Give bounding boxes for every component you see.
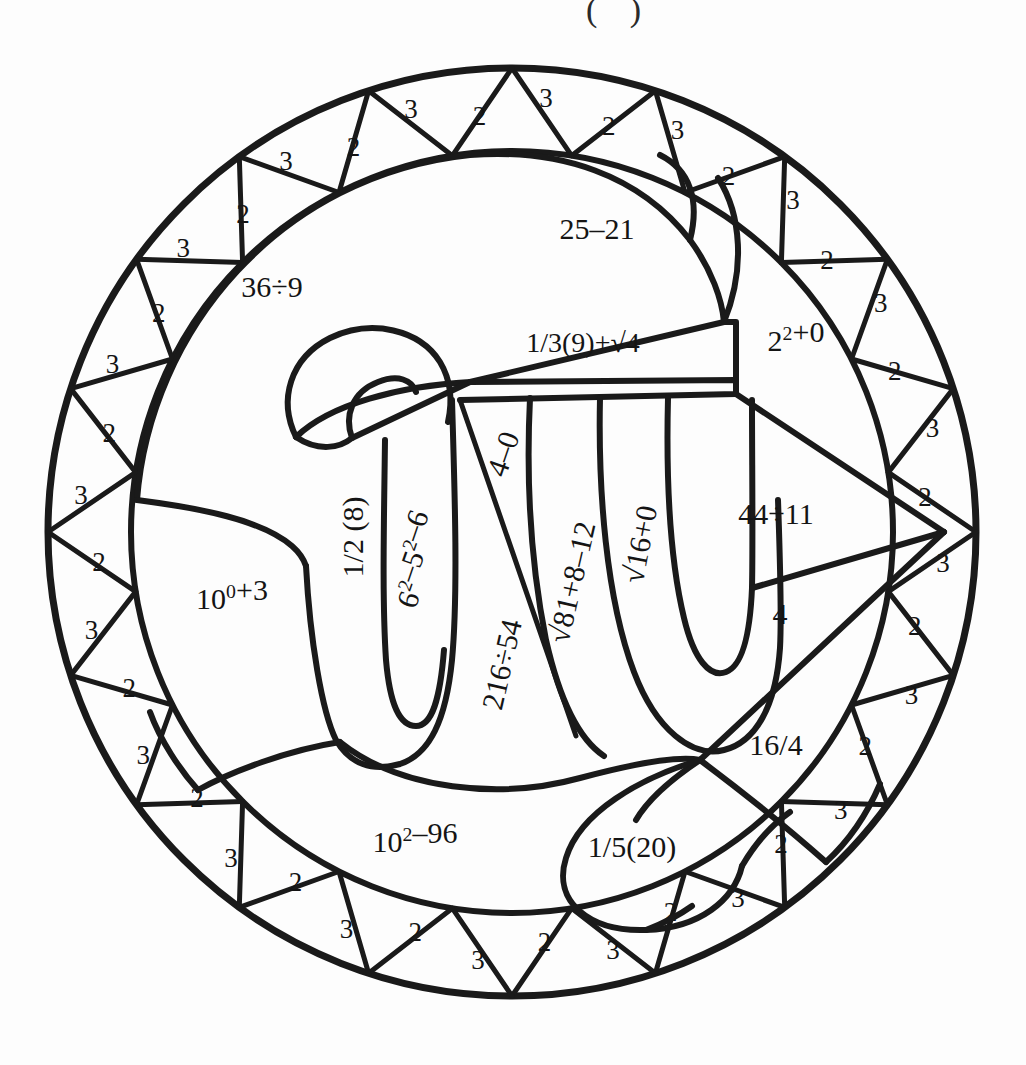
ring-spoke xyxy=(239,801,242,907)
ring-number: 3 xyxy=(340,914,354,944)
region-36-divided-by-9[interactable]: 36÷9 xyxy=(241,270,302,303)
pi-right-leg-inner xyxy=(668,398,753,673)
region-one-third-nine-plus-sqrt-four[interactable]: 1/3(9)+√4 xyxy=(526,327,640,358)
top-partial-mark: ( ) xyxy=(586,0,653,29)
ring-number: 3 xyxy=(85,615,99,645)
ring-number: 3 xyxy=(671,115,685,145)
ring-number: 3 xyxy=(176,233,190,263)
ring-spoke xyxy=(71,592,136,676)
ring-number: 2 xyxy=(473,101,487,131)
region-44-divided-by-11[interactable]: 44÷11 xyxy=(738,497,813,530)
ring-number: 2 xyxy=(820,245,834,275)
ring-number: 2 xyxy=(908,611,922,641)
region-sixteen-over-four[interactable]: 16/4 xyxy=(749,728,802,761)
ring-number: 3 xyxy=(606,935,620,965)
ring-number: 3 xyxy=(137,740,151,770)
ring-number: 2 xyxy=(92,547,106,577)
ring-number: 3 xyxy=(74,480,88,510)
ring-number: 2 xyxy=(858,731,872,761)
ring-number: 2 xyxy=(602,111,616,141)
region-four[interactable]: 4 xyxy=(773,597,788,630)
mandala-figure: 3232323232323232323232323232323232323232 xyxy=(0,0,1026,1065)
region-sqrt-81-plus-8-minus-12[interactable]: √81+8–12 xyxy=(542,518,602,646)
ring-number: 3 xyxy=(926,413,940,443)
ring-spoke xyxy=(852,359,954,389)
ring-number-labels-group: 3232323232323232323232323232323232323232 xyxy=(74,83,950,975)
ring-number: 2 xyxy=(289,867,303,897)
region-216-divided-by-54[interactable]: 216÷54 xyxy=(475,616,528,713)
ring-number: 2 xyxy=(347,132,361,162)
ring-number: 2 xyxy=(888,356,902,386)
region-25-minus-21[interactable]: 25–21 xyxy=(560,212,635,245)
ring-number: 3 xyxy=(905,680,919,710)
ring-spoke xyxy=(71,359,173,389)
ring-number: 2 xyxy=(152,298,166,328)
outer-circle xyxy=(48,68,976,996)
divider-left-bottom xyxy=(198,742,340,790)
worksheet-canvas: ( ) 323232323232323232323232323232323232… xyxy=(0,0,1026,1065)
pi-topbar-lower-left xyxy=(296,382,470,447)
ring-number: 2 xyxy=(918,482,932,512)
ring-number: 3 xyxy=(279,146,293,176)
ring-spoke xyxy=(781,157,784,263)
ring-spoke xyxy=(888,389,953,473)
ring-number: 3 xyxy=(471,945,485,975)
region-one-half-of-eight[interactable]: 1/2 (8) xyxy=(336,497,370,578)
ring-number: 3 xyxy=(539,83,553,113)
region-ten-to-zero-plus-three[interactable]: 100+3 xyxy=(196,573,268,615)
divider-left-to-pi xyxy=(137,500,306,566)
ring-number: 3 xyxy=(834,795,848,825)
ring-number: 3 xyxy=(106,349,120,379)
ring-number: 3 xyxy=(404,94,418,124)
ring-number: 3 xyxy=(936,548,950,578)
ring-number: 3 xyxy=(786,185,800,215)
ring-number: 2 xyxy=(409,917,423,947)
ring-number: 3 xyxy=(224,843,238,873)
region-sqrt-16-plus-zero[interactable]: √16+0 xyxy=(616,503,663,586)
ring-spoke xyxy=(852,675,954,705)
ring-number: 2 xyxy=(236,199,250,229)
ring-number: 2 xyxy=(774,829,788,859)
ring-number: 2 xyxy=(102,418,116,448)
ring-spokes-group xyxy=(48,68,976,996)
ring-number: 2 xyxy=(123,673,137,703)
region-ten-squared-minus-96[interactable]: 102–96 xyxy=(373,816,458,858)
region-four-minus-zero[interactable]: 4–0 xyxy=(480,427,526,480)
region-one-fifth-of-twenty[interactable]: 1/5(20) xyxy=(588,830,676,864)
ring-spoke xyxy=(781,259,887,262)
region-two-squared-plus-zero[interactable]: 22+0 xyxy=(768,315,825,357)
ring-number: 3 xyxy=(874,288,888,318)
ring-number: 2 xyxy=(538,927,552,957)
ring-spoke xyxy=(48,472,136,532)
